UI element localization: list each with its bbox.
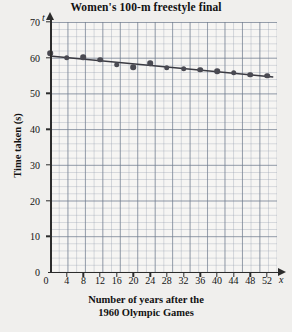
data-point [81,54,87,60]
x-tick-label: 48 [245,275,255,286]
y-tick-mark [46,21,51,22]
x-tick-label: 52 [262,275,272,286]
data-point [181,66,187,72]
x-tick-label: 12 [95,275,105,286]
data-point [231,70,237,76]
y-tick-mark [46,164,51,165]
y-tick-mark [46,93,51,94]
data-point [248,72,254,78]
y-axis-title: Time taken (s) [12,91,23,201]
data-point [264,73,270,79]
y-axis-line [50,18,52,272]
x-axis-title-line-1: Number of years after the [0,294,292,307]
y-tick-label: 0 [14,267,40,278]
y-tick-mark [46,200,51,201]
data-point [97,57,103,63]
plot-area [50,22,277,272]
x-tick-label: 0 [44,275,49,286]
data-point [64,55,70,61]
x-axis-variable-label: x [279,274,283,285]
data-point [214,68,220,74]
y-axis-variable-label: t [42,12,45,23]
y-tick-mark [46,128,51,129]
x-tick-label: 16 [112,275,122,286]
data-point [164,65,170,71]
x-axis-title-line-2: 1960 Olympic Games [0,307,292,320]
x-tick-label: 44 [229,275,239,286]
data-point [147,61,153,67]
x-tick-label: 24 [145,275,155,286]
data-point [114,62,120,68]
data-point [131,65,137,71]
y-axis-arrow-icon [46,12,54,20]
x-tick-label: 32 [179,275,189,286]
chart-figure: Women's 100-m freestyle final t x 010203… [0,0,292,332]
x-tick-label: 20 [128,275,138,286]
x-tick-label: 40 [212,275,222,286]
y-tick-label: 10 [14,231,40,242]
x-tick-label: 28 [162,275,172,286]
y-tick-mark [46,57,51,58]
x-tick-label: 36 [195,275,205,286]
y-tick-label: 60 [14,52,40,63]
y-tick-mark [46,236,51,237]
x-axis-title: Number of years after the 1960 Olympic G… [0,294,292,319]
y-tick-label: 70 [14,17,40,28]
x-tick-label: 8 [81,275,86,286]
data-point [197,67,203,73]
x-tick-label: 4 [64,275,69,286]
